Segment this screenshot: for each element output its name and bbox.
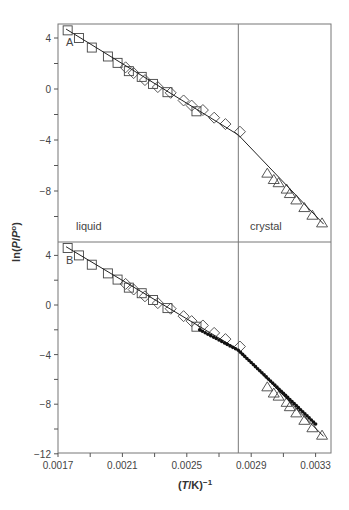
data-series — [63, 26, 327, 439]
y-tick-label: 0 — [45, 84, 51, 95]
x-axis-title: (T/K)−1 — [178, 478, 213, 492]
vapor-pressure-chart: 40−4−840−4−8−120.00170.00210.00250.00290… — [0, 0, 349, 510]
data-point-diamond — [234, 126, 245, 137]
panel-label-a: A — [66, 36, 74, 48]
x-tick-label: 0.0017 — [43, 460, 74, 471]
data-point-dot — [314, 422, 318, 426]
y-axis-title: ln(P/Po) — [9, 222, 23, 262]
fit-line — [66, 247, 324, 437]
y-tick-label: 4 — [45, 250, 51, 261]
x-tick-label: 0.0029 — [236, 460, 267, 471]
data-point-diamond — [197, 105, 208, 116]
plot-frame — [58, 24, 331, 453]
y-tick-label: −8 — [40, 399, 52, 410]
fit-line — [66, 29, 324, 224]
x-tick-label: 0.0025 — [172, 460, 203, 471]
region-label-crystal: crystal — [250, 220, 282, 232]
y-tick-label: −12 — [34, 449, 51, 460]
x-tick-label: 0.0021 — [107, 460, 138, 471]
y-tick-label: −4 — [40, 135, 52, 146]
y-tick-label: −8 — [40, 186, 52, 197]
y-tick-label: −4 — [40, 350, 52, 361]
y-tick-label: 0 — [45, 300, 51, 311]
x-tick-label: 0.0033 — [300, 460, 331, 471]
panel-label-b: B — [66, 254, 73, 266]
axis-ticks: 40−4−840−4−8−120.00170.00210.00250.00290… — [34, 33, 331, 471]
y-tick-label: 4 — [45, 33, 51, 44]
plot-border — [58, 24, 331, 453]
region-label-liquid: liquid — [76, 220, 102, 232]
